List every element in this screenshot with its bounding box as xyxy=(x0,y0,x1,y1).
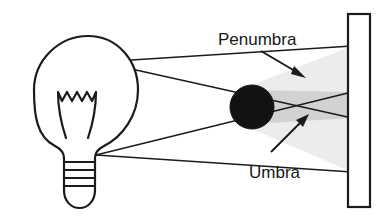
diagram-canvas: Penumbra Umbra xyxy=(0,0,383,220)
bulb-glass-icon xyxy=(34,36,138,162)
light-bulb xyxy=(34,36,138,208)
projection-wall xyxy=(348,14,370,207)
ray-bottom-lower xyxy=(96,155,352,172)
umbra-label: Umbra xyxy=(249,163,301,182)
sphere-occluder xyxy=(230,85,274,129)
physics-diagram: Penumbra Umbra xyxy=(0,0,383,220)
penumbra-label: Penumbra xyxy=(218,30,297,49)
